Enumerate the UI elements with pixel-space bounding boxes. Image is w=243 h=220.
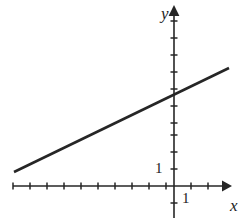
x-axis-arrowhead bbox=[222, 181, 232, 192]
y-axis-arrowhead bbox=[169, 5, 180, 16]
coordinate-plane-svg bbox=[0, 0, 243, 220]
y-axis-tick-label-one: 1 bbox=[155, 161, 163, 176]
x-axis-tick-label-one: 1 bbox=[182, 191, 190, 206]
x-axis-label: x bbox=[230, 197, 238, 214]
graph-figure: y x 1 1 bbox=[0, 0, 243, 220]
plotted-line bbox=[14, 68, 229, 172]
y-axis-label: y bbox=[161, 5, 169, 22]
